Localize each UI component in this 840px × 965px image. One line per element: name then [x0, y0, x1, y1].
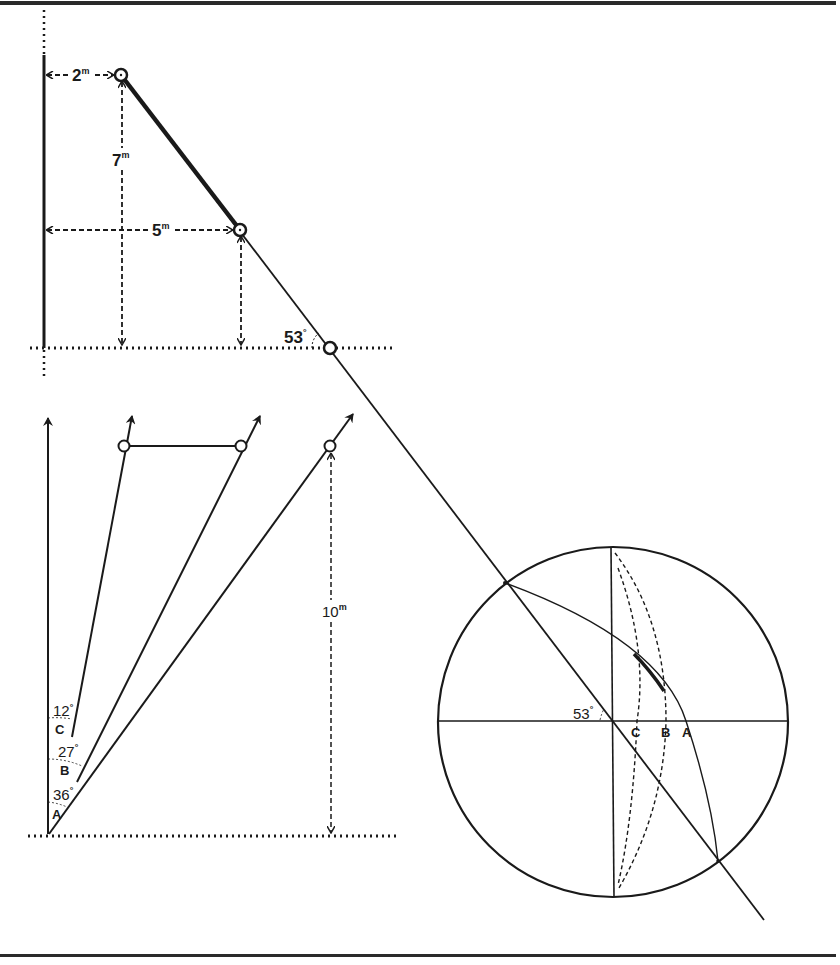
- label-53-top: 53°: [284, 327, 307, 347]
- intersection-upper: [503, 581, 507, 585]
- ray-a: [49, 414, 353, 834]
- intersection-lower: [716, 859, 720, 863]
- label-stereonet-a: A: [682, 725, 692, 740]
- label-angle-27: 27°: [58, 742, 79, 760]
- label-stereonet-b: B: [661, 725, 670, 740]
- label-angle-36: 36°: [53, 785, 74, 803]
- ray-b: [77, 416, 260, 782]
- label-angle-12: 12°: [53, 702, 74, 719]
- label-ray-b: B: [60, 763, 69, 778]
- point-a: [325, 441, 336, 452]
- label-stereonet-c: C: [631, 725, 641, 740]
- bottom-panel: 10m 12° C 27° B 36° A: [28, 414, 398, 836]
- stereonet-angle-arc: [600, 709, 604, 720]
- point-ground: [324, 342, 336, 354]
- projection-line: [121, 75, 764, 920]
- label-53-stereonet: 53°: [573, 704, 594, 722]
- label-ray-a: A: [52, 807, 62, 822]
- stereonet: 53° C B A: [438, 547, 788, 897]
- point-c: [119, 441, 130, 452]
- point-b: [236, 441, 247, 452]
- label-ray-c: C: [55, 722, 65, 737]
- geometry-diagram: 2m 7m 5m 53°: [0, 0, 840, 965]
